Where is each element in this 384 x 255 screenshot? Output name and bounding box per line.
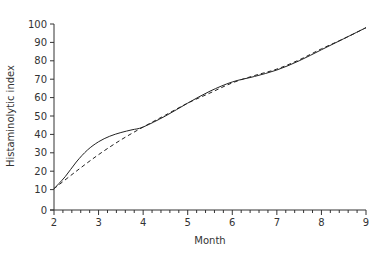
- y-tick-label: 40: [34, 129, 47, 140]
- axes: 010203040506070809010023456789: [28, 19, 369, 229]
- x-tick-label: 2: [51, 217, 57, 228]
- y-tick-label: 100: [28, 19, 47, 30]
- y-tick-label: 50: [34, 111, 47, 122]
- x-tick-label: 6: [229, 217, 235, 228]
- y-axis-label: Histaminolytic index: [5, 65, 16, 167]
- histaminolytic-chart: 010203040506070809010023456789 Month His…: [0, 0, 384, 255]
- y-tick-label: 60: [34, 92, 47, 103]
- x-tick-label: 9: [363, 217, 369, 228]
- y-tick-label: 90: [34, 37, 47, 48]
- x-axis-label: Month: [194, 235, 225, 246]
- y-tick-label: 30: [34, 147, 47, 158]
- x-tick-label: 7: [274, 217, 280, 228]
- chart-canvas: 010203040506070809010023456789 Month His…: [0, 0, 384, 255]
- series-lines: [54, 28, 366, 189]
- y-tick-label: 70: [34, 74, 47, 85]
- x-tick-label: 4: [140, 217, 146, 228]
- x-tick-label: 3: [95, 217, 101, 228]
- series-fitted-line: [54, 28, 366, 189]
- y-tick-label: 0: [41, 205, 47, 216]
- series-observed-line: [54, 28, 366, 189]
- y-tick-label: 10: [34, 184, 47, 195]
- x-tick-label: 5: [185, 217, 191, 228]
- x-tick-label: 8: [318, 217, 324, 228]
- y-tick-label: 80: [34, 55, 47, 66]
- y-tick-label: 20: [34, 166, 47, 177]
